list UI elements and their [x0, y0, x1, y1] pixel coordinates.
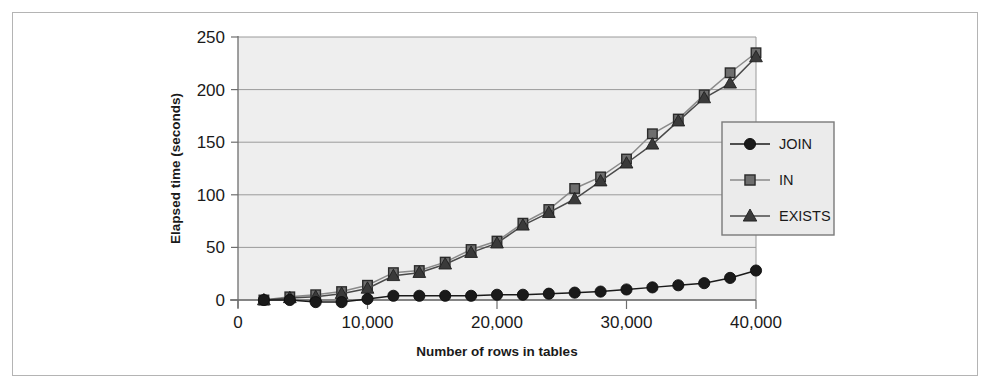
y-axis-title-group: Elapsed time (seconds) — [168, 93, 183, 244]
x-axis-tick-label: 10,000 — [342, 313, 394, 332]
data-point-marker — [744, 138, 755, 149]
legend-label: JOIN — [779, 136, 812, 152]
x-axis-tick-label: 20,000 — [471, 313, 523, 332]
x-axis-title: Number of rows in tables — [416, 344, 577, 359]
line-chart: 050100150200250010,00020,00030,00040,000… — [0, 0, 992, 391]
data-point-marker — [466, 290, 477, 301]
data-point-marker — [543, 288, 554, 299]
y-axis-title: Elapsed time (seconds) — [168, 93, 183, 244]
data-point-marker — [388, 290, 399, 301]
data-point-marker — [745, 175, 755, 185]
figure-container: 050100150200250010,00020,00030,00040,000… — [0, 0, 992, 391]
y-axis-tick-label: 250 — [197, 28, 225, 47]
legend-label: EXISTS — [779, 208, 831, 224]
y-axis-tick-label: 50 — [206, 238, 225, 257]
data-point-marker — [491, 289, 502, 300]
data-point-marker — [440, 290, 451, 301]
data-point-marker — [569, 287, 580, 298]
data-point-marker — [284, 294, 295, 305]
data-point-marker — [414, 290, 425, 301]
data-point-marker — [336, 297, 347, 308]
data-point-marker — [258, 294, 269, 305]
data-point-marker — [362, 293, 373, 304]
data-point-marker — [673, 280, 684, 291]
data-point-marker — [647, 282, 658, 293]
data-point-marker — [517, 289, 528, 300]
data-point-marker — [310, 297, 321, 308]
data-point-marker — [621, 284, 632, 295]
y-axis-tick-label: 150 — [197, 133, 225, 152]
x-axis-tick-label: 0 — [233, 313, 242, 332]
plot-area-background — [238, 37, 756, 300]
y-axis-tick-label: 0 — [216, 291, 225, 310]
y-axis-tick-label: 200 — [197, 81, 225, 100]
legend-label: IN — [779, 172, 794, 188]
data-point-marker — [699, 278, 710, 289]
y-axis-tick-label: 100 — [197, 186, 225, 205]
x-axis-tick-label: 30,000 — [601, 313, 653, 332]
data-point-marker — [750, 265, 761, 276]
chart-legend[interactable]: JOININEXISTS — [722, 122, 834, 235]
x-axis-tick-label: 40,000 — [730, 313, 782, 332]
data-point-marker — [595, 286, 606, 297]
data-point-marker — [725, 272, 736, 283]
